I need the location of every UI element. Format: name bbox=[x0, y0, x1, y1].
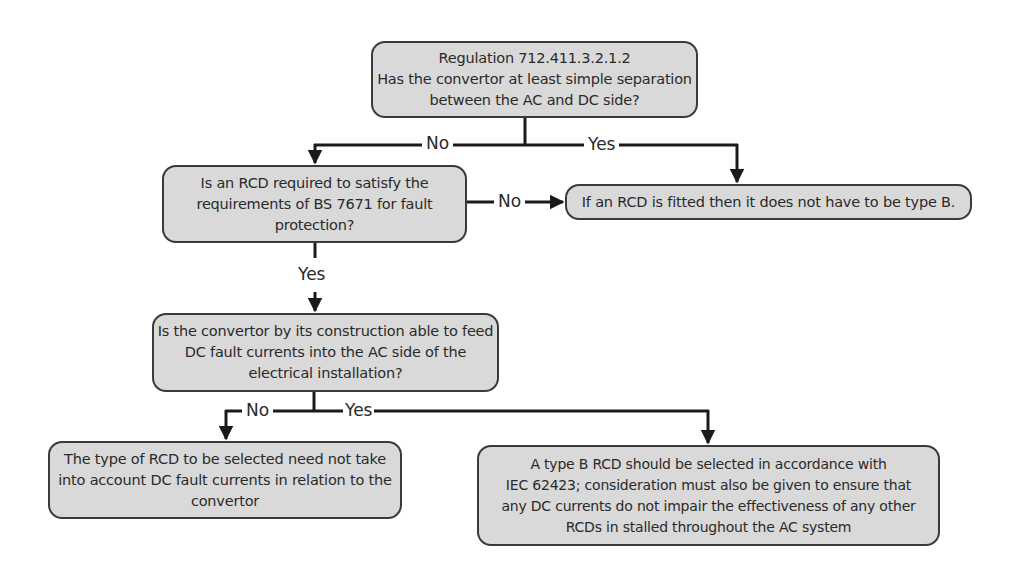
outcome-box-not-type-b: If an RCD is fitted then it does not hav… bbox=[565, 184, 972, 220]
edge-label-q1-yes: Yes bbox=[584, 134, 619, 154]
box-line: IEC 62423; consideration must also be gi… bbox=[501, 475, 915, 496]
outcome-box-type-b-rcd: A type B RCD should be selected in accor… bbox=[477, 445, 940, 546]
box-line: Has the convertor at least simple separa… bbox=[377, 69, 692, 90]
edge-label-q1-no: No bbox=[422, 133, 453, 153]
box-line: between the AC and DC side? bbox=[377, 90, 692, 111]
box-line: Is an RCD required to satisfy the bbox=[196, 173, 432, 194]
box-line: RCDs in stalled throughout the AC system bbox=[501, 517, 915, 538]
decision-box-dc-fault-feed: Is the convertor by its construction abl… bbox=[152, 313, 499, 392]
edge-label-q2-no: No bbox=[494, 191, 525, 211]
box-line: Is the convertor by its construction abl… bbox=[158, 321, 494, 342]
box-line: The type of RCD to be selected need not … bbox=[58, 449, 392, 470]
box-line: electrical installation? bbox=[158, 363, 494, 384]
box-line: requirements of BS 7671 for fault bbox=[196, 194, 432, 215]
decision-box-rcd-required: Is an RCD required to satisfy the requir… bbox=[162, 165, 467, 243]
box-line: convertor bbox=[58, 491, 392, 512]
box-line: Regulation 712.411.3.2.1.2 bbox=[377, 48, 692, 69]
box-line: If an RCD is fitted then it does not hav… bbox=[582, 192, 955, 213]
edge-label-q3-yes: Yes bbox=[343, 400, 374, 420]
box-line: DC fault currents into the AC side of th… bbox=[158, 342, 494, 363]
decision-box-separation: Regulation 712.411.3.2.1.2 Has the conve… bbox=[371, 41, 698, 118]
box-line: protection? bbox=[196, 215, 432, 236]
box-line: into account DC fault currents in relati… bbox=[58, 470, 392, 491]
edge-label-q2-yes: Yes bbox=[294, 264, 329, 284]
box-line: any DC currents do not impair the effect… bbox=[501, 496, 915, 517]
box-line: A type B RCD should be selected in accor… bbox=[501, 454, 915, 475]
edge-label-q3-no: No bbox=[242, 400, 273, 420]
outcome-box-no-dc-consideration: The type of RCD to be selected need not … bbox=[48, 441, 402, 519]
